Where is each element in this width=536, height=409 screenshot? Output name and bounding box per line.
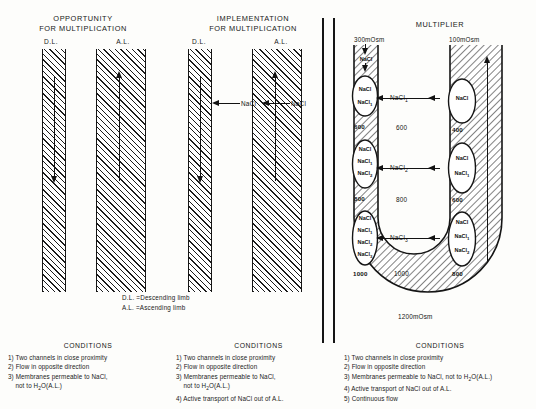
flow-arrow-head-al-opportunity (116, 71, 122, 78)
outlet-flow-head (484, 56, 490, 63)
ascending-cell-2-osm: 600 (452, 196, 463, 203)
legend-descending: D.L. =Descending limb (122, 294, 190, 301)
legend-ascending: A.L. =Ascending limb (122, 304, 185, 311)
diagram-canvas: OPPORTUNITY FOR MULTIPLICATION D.L. A.L.… (0, 0, 536, 409)
inlet-species-label: NaCl (354, 56, 378, 62)
ascending-cell-3-species-2: NaCl1 (447, 233, 477, 241)
interstitium-osm-2: 800 (396, 196, 407, 203)
descending-cell-2-species-2: NaCl1 (351, 158, 379, 166)
descending-cell-3-species-2: NaCl1 (351, 227, 379, 235)
interstitium-osm-1: 600 (396, 124, 407, 131)
descending-cell-1-species-2: NaCl1 (351, 99, 379, 107)
conditions-title-3: CONDITIONS (344, 342, 536, 349)
descending-cell-2-species-3: NaCl2 (351, 170, 379, 178)
ascending-cell-1-osm: 400 (452, 126, 463, 133)
flow-arrow-head-al-implementation (272, 71, 278, 78)
ascending-cell-2-species-2: NaCl1 (447, 170, 477, 178)
panel-title-implementation: IMPLEMENTATION FOR MULTIPLICATION (178, 14, 328, 33)
transport-arrow-head-outer-3 (428, 235, 435, 241)
ascending-cell-2 (447, 142, 477, 194)
descending-cell-3-species-3: NaCl2 (351, 239, 379, 247)
nacl-arrow-line-impl-2 (268, 103, 290, 104)
flow-arrow-head-dl-opportunity (51, 176, 57, 183)
label-al-opportunity: A.L. (110, 38, 136, 45)
separator-rule-left (322, 18, 324, 343)
flow-arrow-head-dl-implementation (197, 176, 203, 183)
conditions-item-3-4: 4) Active transport of NaCl out of A.L. (344, 384, 536, 393)
descending-cell-2-osm: 800 (354, 195, 365, 202)
descending-cell-1-osm: 600 (354, 123, 365, 130)
flow-arrow-line-dl-implementation (200, 76, 201, 181)
bend-osm-label: 1200mOsm (398, 313, 433, 320)
conditions-item-2-2: 2) Flow in opposite direction (176, 362, 341, 371)
panel-title-multiplier: MULTIPLIER (380, 20, 500, 30)
transport-arrow-head-inner-3 (376, 235, 383, 241)
ascending-cell-3-osm: 800 (452, 270, 463, 277)
conditions-item-1-3: 3) Membranes permeable to NaCl, not to H… (8, 372, 168, 394)
transport-arrow-head-inner-1 (376, 95, 383, 101)
nacl-arrow-head-impl-1 (212, 100, 219, 106)
flow-arrow-line-dl-opportunity (54, 76, 55, 181)
label-dl-opportunity: D.L. (38, 38, 64, 45)
separator-rule-right (333, 18, 335, 343)
inlet-flow-head (362, 48, 368, 55)
descending-cell-1 (351, 75, 379, 117)
conditions-item-2-3: 3) Membranes permeable to NaCl, not to H… (176, 372, 341, 394)
ascending-cell-3-species-1: NaCl (447, 219, 477, 227)
flow-arrow-line-al-implementation (275, 76, 276, 181)
transport-arrow-head-outer-1 (428, 95, 435, 101)
nacl-arrow-head-impl-2 (262, 100, 269, 106)
ascending-cell-3-species-3: NaCl2 (447, 247, 477, 255)
conditions-item-3-5: 5) Continuous flow (344, 394, 536, 403)
conditions-item-2-1: 1) Two channels in close proximity (176, 353, 341, 362)
conditions-item-3-2: 2) Flow in opposite direction (344, 362, 536, 371)
flow-arrow-line-al-opportunity (119, 76, 120, 181)
ascending-cell-2-species-1: NaCl (447, 155, 477, 163)
descending-cell-2-species-1: NaCl (351, 146, 379, 154)
nacl-label-impl-1: NaCl (241, 100, 256, 107)
descending-cell-1-species-1: NaCl (351, 86, 379, 94)
nacl-label-impl-2: NaCl (291, 100, 306, 107)
nacl-arrow-line-impl-1 (218, 103, 240, 104)
conditions-block-implementation: CONDITIONS 1) Two channels in close prox… (176, 342, 341, 403)
transport-arrow-head-outer-2 (428, 165, 435, 171)
descending-cell-3-species-4: NaCl3 (351, 251, 379, 259)
transport-arrow-label-3: NaCl3 (390, 234, 408, 243)
tube-ascending-opportunity (96, 49, 146, 292)
conditions-block-opportunity: CONDITIONS 1) Two channels in close prox… (8, 342, 168, 394)
ascending-cell-1-species-1: NaCl (447, 95, 477, 103)
inlet-flow-head-2 (362, 65, 368, 72)
descending-cell-3-species-1: NaCl (351, 215, 379, 223)
conditions-item-1-1: 1) Two channels in close proximity (8, 353, 168, 362)
interstitium-osm-3: 1000 (394, 270, 409, 277)
panel-title-opportunity: OPPORTUNITY FOR MULTIPLICATION (8, 14, 158, 33)
outlet-flow-line (487, 62, 488, 262)
conditions-item-3-1: 1) Two channels in close proximity (344, 353, 536, 362)
conditions-title-2: CONDITIONS (176, 342, 341, 349)
tube-ascending-implementation (252, 49, 302, 292)
transport-arrow-label-2: NaCl2 (390, 164, 408, 173)
conditions-title-1: CONDITIONS (8, 342, 168, 349)
conditions-item-1-2: 2) Flow in opposite direction (8, 362, 168, 371)
descending-cell-3-osm: 1000 (353, 270, 368, 277)
conditions-block-multiplier: CONDITIONS 1) Two channels in close prox… (344, 342, 536, 403)
label-dl-implementation: D.L. (186, 38, 212, 45)
label-al-implementation: A.L. (268, 38, 294, 45)
transport-arrow-head-inner-2 (376, 165, 383, 171)
transport-arrow-label-1: NaCl1 (390, 94, 408, 103)
conditions-item-3-3: 3) Membranes permeable to NaCl, not to H… (344, 372, 536, 385)
conditions-item-2-4: 4) Active transport of NaCl out of A.L. (176, 394, 341, 403)
